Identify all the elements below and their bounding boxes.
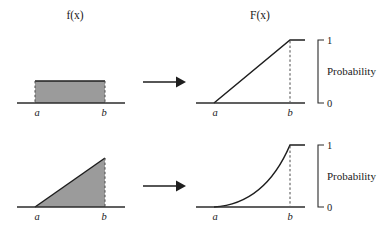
- cdf-linear-curve: [214, 40, 305, 103]
- arrow-top: [143, 77, 186, 88]
- x-tick-label-b-top-left: b: [101, 107, 106, 118]
- y-tick-label-one-bottom: 1: [327, 140, 332, 151]
- arrow-bottom-head: [176, 181, 186, 192]
- x-tick-label-b-bottom-left: b: [101, 211, 106, 222]
- cdf-convex-curve: [214, 145, 305, 207]
- panel-bottom-right-cdf: a b 1 0 Probability: [196, 140, 376, 222]
- x-tick-label-a-bottom-right: a: [212, 211, 217, 222]
- x-tick-label-a-top-left: a: [34, 107, 39, 118]
- uniform-density-shaded-region: [35, 81, 105, 103]
- panel-top-right-cdf: a b 1 0 Probability: [196, 35, 376, 118]
- y-axis-label-probability-top: Probability: [327, 65, 376, 77]
- panel-top-left-pdf: a b: [17, 81, 125, 118]
- y-tick-label-one-top: 1: [327, 35, 332, 46]
- header-label-Fx: F(x): [250, 9, 270, 22]
- figure-container: f(x) F(x) a b: [0, 0, 390, 233]
- arrow-top-head: [176, 77, 186, 88]
- probability-distribution-figure: f(x) F(x) a b: [0, 0, 390, 233]
- x-tick-label-a-bottom-left: a: [34, 211, 39, 222]
- y-axis-label-probability-bottom: Probability: [327, 170, 376, 182]
- x-tick-label-b-bottom-right: b: [287, 211, 292, 222]
- x-tick-label-b-top-right: b: [287, 107, 292, 118]
- x-tick-label-a-top-right: a: [212, 107, 217, 118]
- panel-bottom-left-pdf: a b: [17, 158, 125, 222]
- probability-bracket-top: [318, 40, 324, 103]
- header-label-fx: f(x): [66, 9, 83, 22]
- y-tick-label-zero-top: 0: [327, 98, 332, 109]
- y-tick-label-zero-bottom: 0: [327, 202, 332, 213]
- probability-bracket-bottom: [318, 145, 324, 207]
- arrow-bottom: [143, 181, 186, 192]
